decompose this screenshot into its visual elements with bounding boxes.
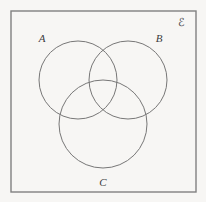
universal-set-symbol: ℰ — [178, 16, 185, 29]
venn-diagram-figure: A B C ℰ — [0, 0, 206, 202]
set-label-c: C — [99, 176, 107, 188]
venn-diagram-canvas: A B C ℰ — [0, 0, 206, 202]
set-label-b: B — [156, 32, 163, 44]
circle-c — [59, 80, 147, 168]
set-label-a: A — [38, 32, 46, 44]
